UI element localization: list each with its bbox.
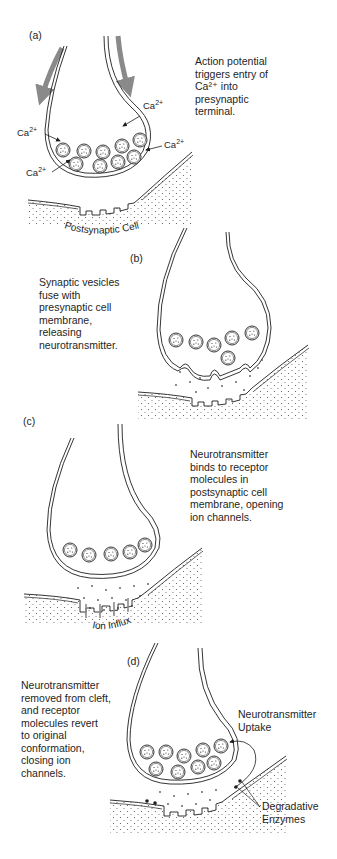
ca-ion-label-4: Ca2+ xyxy=(26,166,46,178)
panel-d-letter: (d) xyxy=(127,655,140,667)
neurotransmitter-uptake-label: Neurotransmitter Uptake xyxy=(238,708,316,733)
ca-ion-label-2: Ca2+ xyxy=(17,126,37,138)
panel-c-letter: (c) xyxy=(23,415,35,427)
panel-a-description: Action potential triggers entry of Ca²⁺ … xyxy=(195,55,268,118)
ca-ion-label-1: Ca2+ xyxy=(143,99,163,111)
degradative-enzymes-label: Degradative Enzymes xyxy=(262,800,319,825)
ca-ion-label-3: Ca2+ xyxy=(164,138,184,150)
panel-b-description: Synaptic vesicles fuse with presynaptic … xyxy=(39,276,120,351)
panel-a-drawing: Postsynaptic Cell xyxy=(0,36,337,236)
panel-d-drawing xyxy=(110,643,287,835)
panel-b-letter: (b) xyxy=(130,252,143,264)
panel-d-description: Neurotransmitter removed from cleft, and… xyxy=(21,679,111,779)
panel-b-drawing xyxy=(138,228,309,420)
panel-a-letter: (a) xyxy=(29,29,42,41)
panel-c-drawing: Ion Influx xyxy=(24,424,203,631)
panel-c-description: Neurotransmitter binds to receptor molec… xyxy=(190,448,283,523)
